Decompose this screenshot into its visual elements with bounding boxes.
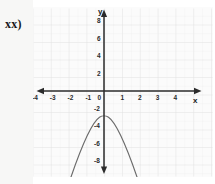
y-tick-6: 6 [97, 36, 101, 43]
problem-label: xx) [5, 17, 22, 32]
y-tick-neg4: -4 [94, 123, 100, 130]
graph-figure: xx) [0, 0, 215, 184]
y-tick-8: 8 [97, 18, 101, 25]
x-tick-4: 4 [174, 95, 178, 102]
y-axis-label: y [98, 8, 102, 16]
x-tick-zero: 0 [98, 95, 102, 102]
y-tick-4: 4 [97, 53, 101, 60]
x-tick-neg1: -1 [85, 95, 91, 102]
x-tick-3: 3 [156, 95, 160, 102]
axis-lines [33, 7, 213, 177]
x-tick-1: 1 [121, 95, 125, 102]
y-tick-neg2: -2 [94, 106, 100, 113]
y-tick-2: 2 [97, 71, 101, 78]
x-tick-neg3: -3 [50, 95, 56, 102]
y-tick-neg8: -8 [94, 158, 100, 165]
x-tick-2: 2 [138, 95, 142, 102]
x-axis-label: x [193, 97, 197, 105]
coordinate-plane: y x -4 -3 -2 -1 0 1 2 3 4 8 6 4 2 -2 -4 … [33, 7, 213, 177]
x-tick-neg2: -2 [68, 95, 74, 102]
x-tick-neg4: -4 [33, 95, 38, 102]
y-tick-neg6: -6 [94, 141, 100, 148]
